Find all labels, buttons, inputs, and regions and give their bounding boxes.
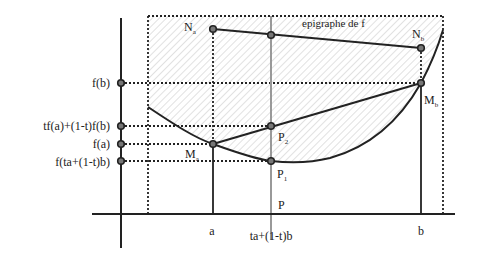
- point-fa-axis: [118, 141, 125, 148]
- point-mb: [418, 80, 425, 87]
- label-fcomb: f(ta+(1-t)b): [55, 155, 110, 169]
- label-ma: Ma: [185, 147, 200, 163]
- label-combo: tf(a)+(1-t)f(b): [43, 119, 110, 133]
- point-fcomb-axis: [118, 158, 125, 165]
- point-p1: [268, 158, 275, 165]
- point-na: [210, 26, 217, 33]
- label-mb: Mb: [424, 93, 439, 109]
- point-p2: [268, 123, 275, 130]
- label-a: a: [209, 224, 215, 238]
- label-b: b: [418, 224, 424, 238]
- point-combo-axis: [118, 123, 125, 130]
- label-mid: ta+(1-t)b: [250, 229, 293, 243]
- convexity-diagram: epigraphe de f f(b) tf(a)+(1-t)f(b) f(a)…: [0, 0, 481, 259]
- point-ma: [210, 141, 217, 148]
- point-nb: [418, 45, 425, 52]
- label-p: P: [278, 198, 285, 212]
- label-fa: f(a): [93, 137, 110, 151]
- point-fb-axis: [118, 80, 125, 87]
- point-n-mid: [268, 32, 275, 39]
- epigraph-label: epigraphe de f: [302, 17, 365, 29]
- label-fb: f(b): [92, 76, 110, 90]
- label-p1: P1: [277, 167, 288, 183]
